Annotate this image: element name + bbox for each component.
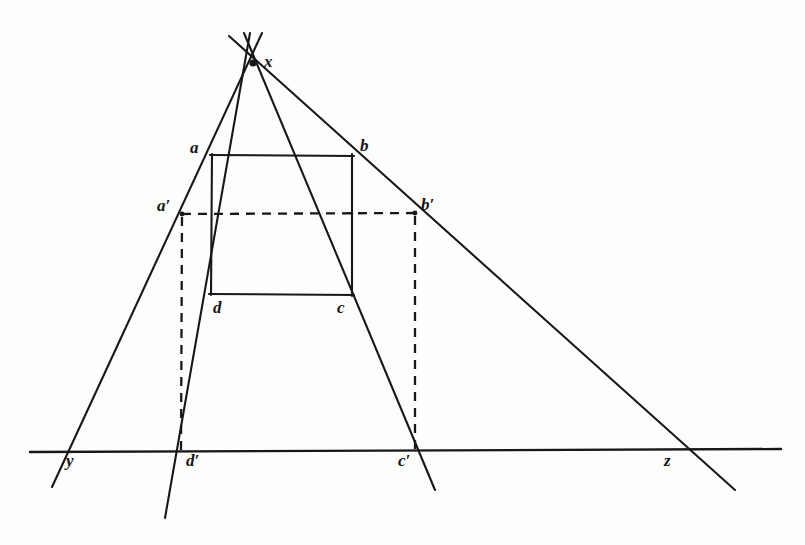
- solid-line-group: [30, 33, 781, 518]
- ray-x-through-d-dprime: [165, 33, 250, 518]
- point-label-a-prime: a′: [157, 197, 170, 214]
- point-label-b: b: [360, 137, 369, 154]
- point-label-d-prime: d′: [186, 452, 199, 469]
- ray-x-through-a-aprime-y: [52, 33, 262, 487]
- geometry-figure: x a b a′ b′ d c y d′ c′ z: [0, 0, 805, 545]
- point-label-y: y: [66, 452, 74, 469]
- dashed-horizontal-aprime-bprime: [182, 213, 415, 214]
- square-side-ad: [211, 154, 212, 295]
- point-label-b-prime: b′: [421, 196, 434, 213]
- vertex-dot-x: [249, 59, 256, 66]
- point-label-z: z: [664, 452, 671, 469]
- vertex-dot-aprime: [180, 212, 185, 217]
- point-label-x: x: [264, 53, 273, 70]
- dashed-vertical-aprime-dprime: [181, 217, 182, 450]
- point-label-c-prime: c′: [398, 452, 410, 469]
- dashed-line-group: [181, 213, 415, 450]
- point-label-a: a: [190, 139, 199, 156]
- point-label-d: d: [213, 299, 222, 316]
- vertex-dot-bprime: [413, 211, 418, 216]
- square-side-ab: [210, 155, 354, 156]
- point-label-c: c: [337, 299, 345, 316]
- vertex-dot-group: [180, 59, 418, 216]
- ray-x-through-c-cprime: [244, 33, 435, 490]
- ray-x-through-b-bprime-z: [229, 36, 735, 490]
- square-side-dc: [209, 294, 354, 295]
